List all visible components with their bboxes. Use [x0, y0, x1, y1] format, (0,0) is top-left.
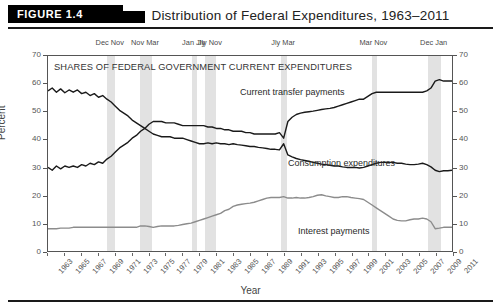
recession-month-labels: Dec NovNov MarJan JlyJly NovJly MarMar N… — [0, 38, 501, 50]
y-axis-title: Percent — [0, 106, 7, 140]
recession-label: Jly Nov — [198, 38, 222, 47]
x-axis-tick-label: 2011 — [462, 257, 480, 275]
y-axis-tick-left: 50 — [32, 106, 41, 115]
x-axis-tick-label: 2009 — [445, 257, 463, 276]
recession-label: Nov Mar — [131, 38, 159, 47]
x-tick-mark — [301, 253, 302, 256]
y-tick-mark — [43, 83, 47, 84]
x-axis-tick-label: 1981 — [209, 257, 227, 276]
y-tick-mark — [43, 196, 47, 197]
x-tick-mark — [81, 253, 82, 256]
y-axis-tick-left: 60 — [32, 78, 41, 87]
x-axis-tick-label: 2005 — [412, 257, 430, 276]
y-tick-mark — [453, 168, 457, 169]
y-tick-mark — [453, 196, 457, 197]
title-divider — [8, 27, 493, 29]
x-tick-mark — [419, 253, 420, 256]
y-tick-mark — [43, 55, 47, 56]
y-tick-mark — [453, 111, 457, 112]
y-tick-mark — [43, 252, 47, 253]
x-axis-tick-label: 1967 — [90, 257, 108, 276]
x-tick-mark — [250, 253, 251, 256]
figure-badge: FIGURE 1.4 — [8, 5, 123, 23]
x-axis-tick-label: 2007 — [429, 257, 447, 276]
y-axis-tick-left: 40 — [32, 134, 41, 143]
x-axis-tick-label: 1995 — [327, 257, 345, 276]
y-axis-tick-right: 70 — [459, 50, 468, 59]
x-axis-ticks: 1963196519671969197119731975197719791981… — [0, 253, 501, 283]
x-axis-tick-label: 1993 — [310, 257, 328, 276]
y-tick-mark — [43, 224, 47, 225]
x-axis-tick-label: 1975 — [158, 257, 176, 276]
x-tick-mark — [149, 253, 150, 256]
x-axis-tick-label: 2003 — [395, 257, 413, 276]
series-label-consumption-expenditures: Consumption expenditures — [288, 158, 395, 168]
x-tick-mark — [98, 253, 99, 256]
x-tick-mark — [47, 253, 48, 256]
x-axis-tick-label: 1991 — [293, 257, 311, 276]
y-axis-tick-left: 20 — [32, 191, 41, 200]
x-axis-tick-label: 1983 — [226, 257, 244, 276]
chart-title: Distribution of Federal Expenditures, 19… — [108, 6, 493, 26]
y-tick-mark — [453, 252, 457, 253]
x-axis-tick-label: 1965 — [73, 257, 91, 276]
x-tick-mark — [115, 253, 116, 256]
x-axis-tick-label: 1999 — [361, 257, 379, 276]
x-axis-tick-label: 1987 — [259, 257, 277, 276]
y-tick-mark — [43, 168, 47, 169]
y-tick-mark — [453, 224, 457, 225]
x-axis-tick-label: 1973 — [141, 257, 159, 276]
x-tick-mark — [199, 253, 200, 256]
bottom-divider — [8, 300, 493, 302]
y-axis-tick-right: 0 — [459, 247, 463, 256]
x-tick-mark — [165, 253, 166, 256]
x-axis-tick-label: 1963 — [56, 257, 74, 276]
x-axis-tick-label: 2001 — [378, 257, 396, 276]
series-label-interest-payments: Interest payments — [298, 226, 370, 236]
x-tick-mark — [402, 253, 403, 256]
recession-label: Dec Nov — [96, 38, 124, 47]
inchart-header: SHARES OF FEDERAL GOVERNMENT CURRENT EXP… — [54, 62, 352, 72]
x-axis-title: Year — [0, 285, 501, 296]
y-tick-mark — [453, 139, 457, 140]
series-label-current-transfer-payments: Current transfer payments — [240, 87, 345, 97]
x-axis-tick-label: 1989 — [276, 257, 294, 276]
y-axis-tick-right: 60 — [459, 78, 468, 87]
y-axis-tick-right: 10 — [459, 219, 468, 228]
x-axis-tick-label: 1985 — [242, 257, 260, 276]
x-tick-mark — [182, 253, 183, 256]
x-tick-mark — [368, 253, 369, 256]
y-axis-tick-right: 20 — [459, 191, 468, 200]
y-axis-tick-left: 30 — [32, 163, 41, 172]
x-axis-tick-label: 1979 — [192, 257, 210, 276]
x-tick-mark — [335, 253, 336, 256]
y-axis-tick-left: 70 — [32, 50, 41, 59]
y-axis-tick-left: 10 — [32, 219, 41, 228]
x-axis-tick-label: 1971 — [124, 257, 142, 276]
x-axis-tick-label: 1997 — [344, 257, 362, 276]
x-tick-mark — [233, 253, 234, 256]
y-axis-tick-right: 30 — [459, 163, 468, 172]
x-tick-mark — [318, 253, 319, 256]
x-tick-mark — [267, 253, 268, 256]
y-axis-tick-right: 40 — [459, 134, 468, 143]
figure-badge-label: FIGURE 1.4 — [17, 8, 83, 20]
x-axis-tick-label: 1977 — [175, 257, 193, 276]
y-tick-mark — [453, 83, 457, 84]
x-tick-mark — [132, 253, 133, 256]
x-tick-mark — [436, 253, 437, 256]
x-axis-tick-label: 1969 — [107, 257, 125, 276]
y-tick-mark — [43, 139, 47, 140]
y-axis-tick-left: 0 — [37, 247, 41, 256]
recession-label: Dec Jan — [420, 38, 447, 47]
x-tick-mark — [352, 253, 353, 256]
y-axis-tick-right: 50 — [459, 106, 468, 115]
series-line — [48, 195, 452, 229]
x-tick-mark — [385, 253, 386, 256]
recession-label: Mar Nov — [359, 38, 387, 47]
recession-label: Jly Mar — [271, 38, 295, 47]
x-tick-mark — [453, 253, 454, 256]
plot-area: SHARES OF FEDERAL GOVERNMENT CURRENT EXP… — [47, 55, 453, 252]
chart-lines — [48, 56, 452, 251]
x-tick-mark — [284, 253, 285, 256]
